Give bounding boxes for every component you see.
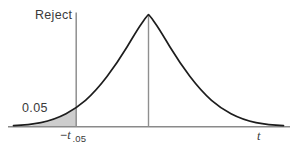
tail-area-label: 0.05 (22, 102, 48, 115)
critical-variable: t (67, 128, 71, 142)
critical-subscript: .05 (72, 133, 86, 144)
x-axis-variable-label: t (257, 130, 260, 143)
t-distribution-figure: Reject 0.05 −t.05 t (0, 0, 296, 156)
critical-value-label: −t.05 (60, 129, 85, 142)
distribution-plot (0, 0, 296, 156)
reject-region-label: Reject (35, 9, 72, 22)
